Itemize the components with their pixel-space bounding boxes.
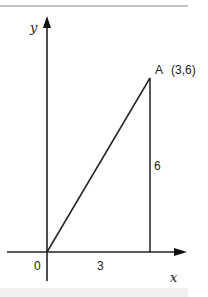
triangle-diagram: y x 0 3 6 A (3,6) <box>0 0 208 297</box>
hypotenuse <box>47 78 150 252</box>
height-label: 6 <box>154 159 161 173</box>
y-axis-label: y <box>29 20 38 35</box>
point-label: A <box>155 63 163 77</box>
x-axis-arrow-icon <box>174 248 187 256</box>
point-coords: (3,6) <box>171 63 196 77</box>
origin-label: 0 <box>34 259 41 273</box>
x-axis-label: x <box>170 270 178 285</box>
base-label: 3 <box>97 259 104 273</box>
y-axis-arrow-icon <box>43 16 51 28</box>
